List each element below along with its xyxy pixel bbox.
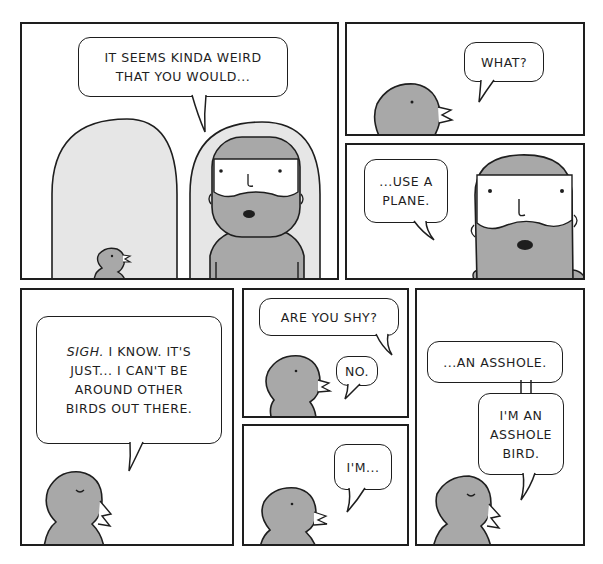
bubble-tail	[347, 487, 377, 527]
bubble-tail	[190, 94, 220, 134]
bird	[266, 356, 330, 418]
speech-bubble-bird-second: I'M AN ASSHOLE BIRD.	[478, 393, 564, 475]
speech-bubble-man: ...USE A PLANE.	[364, 159, 448, 223]
panel-3: ...USE A PLANE.	[345, 143, 585, 280]
bubble-tail	[477, 79, 507, 109]
man-head-closeup	[471, 155, 585, 280]
bubble-connector	[518, 380, 538, 400]
panel-6: I'M...	[242, 424, 409, 546]
speech-bubble-bird: SIGH. I KNOW. IT'S JUST... I CAN'T BE AR…	[36, 316, 222, 444]
speech-bubble-man: IT SEEMS KINDA WEIRD THAT YOU WOULD...	[78, 37, 288, 97]
bubble-tail	[521, 472, 551, 512]
bird-head	[375, 84, 452, 136]
bubble-tail	[127, 441, 157, 481]
speech-bubble-man: ARE YOU SHY?	[259, 298, 399, 336]
sigh-emphasis: SIGH.	[67, 344, 104, 359]
bubble-tail	[374, 333, 404, 363]
panel-4: SIGH. I KNOW. IT'S JUST... I CAN'T BE AR…	[20, 288, 234, 546]
bird	[260, 488, 327, 546]
bird-eyes-closed	[433, 476, 500, 546]
panel-1: IT SEEMS KINDA WEIRD THAT YOU WOULD...	[20, 22, 339, 280]
bird-eyes-closed	[44, 472, 111, 546]
speech-bubble-bird-first: ...AN ASSHOLE.	[427, 341, 563, 383]
panel-7: ...AN ASSHOLE. I'M AN ASSHOLE BIRD.	[415, 288, 585, 546]
speech-bubble-bird: WHAT?	[464, 42, 544, 82]
bubble-tail	[344, 383, 374, 413]
panel-2-art	[347, 24, 585, 136]
man-head	[209, 137, 303, 237]
speech-bubble-bird: I'M...	[334, 444, 392, 490]
speech-bubble-bird: NO.	[336, 356, 378, 386]
bubble-tail	[412, 220, 442, 250]
panel-2: WHAT?	[345, 22, 585, 136]
panel-5: ARE YOU SHY? NO.	[242, 288, 409, 418]
